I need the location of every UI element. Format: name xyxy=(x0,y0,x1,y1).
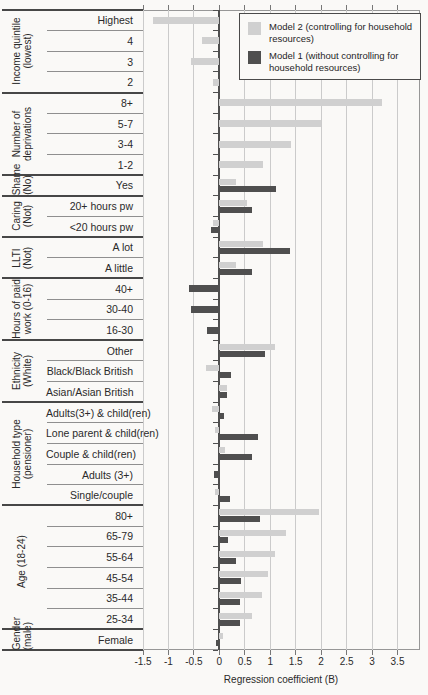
zero-axis-tick xyxy=(213,464,218,465)
category-label: Asian/Asian British xyxy=(46,385,133,399)
x-axis-title: Regression coefficient (B) xyxy=(181,674,381,685)
category-label: 16-30 xyxy=(46,323,133,337)
legend-item: Model 1 (without controlling for househo… xyxy=(248,50,414,73)
axis-tick-bottom xyxy=(295,650,296,655)
category-label: 4 xyxy=(46,34,133,48)
category-label: 1-2 xyxy=(46,158,133,172)
bar-model2 xyxy=(219,613,252,619)
bar-model2 xyxy=(219,262,236,268)
axis-tick-top xyxy=(244,5,245,10)
bar-model1 xyxy=(219,516,260,522)
zero-axis-tick xyxy=(213,588,218,589)
category-label: 40+ xyxy=(46,282,133,296)
zero-axis-tick xyxy=(213,567,218,568)
bar-model1 xyxy=(207,327,220,334)
category-label: 3-4 xyxy=(46,137,133,151)
category-separator xyxy=(47,608,143,609)
bar-model2 xyxy=(213,220,219,226)
bar-model1 xyxy=(219,248,289,254)
bar-model2 xyxy=(219,241,263,247)
legend: Model 2 (controlling for household resou… xyxy=(239,13,421,80)
category-label: 25-34 xyxy=(46,612,133,626)
bar-model2 xyxy=(215,489,219,495)
category-label: Black/Black British xyxy=(46,364,133,378)
bar-model2 xyxy=(212,406,219,412)
bar-model2 xyxy=(202,37,220,44)
zero-axis-tick xyxy=(213,484,218,485)
category-label: 8+ xyxy=(46,96,133,110)
category-label: 80+ xyxy=(46,509,133,523)
bar-model1 xyxy=(219,186,276,192)
bar-model1 xyxy=(219,537,228,543)
category-separator xyxy=(47,319,143,320)
axis-tick-top xyxy=(397,5,398,10)
zero-axis-tick xyxy=(213,30,218,31)
zero-axis-tick xyxy=(213,422,218,423)
axis-tick-bottom xyxy=(372,650,373,655)
category-separator xyxy=(47,216,143,217)
bar-model1 xyxy=(219,620,239,626)
category-label: 45-54 xyxy=(46,571,133,585)
bar-model2 xyxy=(219,99,382,106)
bar-model2 xyxy=(219,385,227,391)
zero-axis-tick xyxy=(213,526,218,527)
axis-tick-top xyxy=(295,5,296,10)
bar-model1 xyxy=(219,351,265,357)
zero-axis-tick xyxy=(213,154,218,155)
category-label: 20+ hours pw xyxy=(46,199,133,213)
legend-swatch-model1 xyxy=(248,51,261,64)
bar-model1 xyxy=(211,227,219,233)
category-separator xyxy=(47,133,143,134)
gridline xyxy=(397,10,398,650)
zero-axis-tick xyxy=(213,629,218,630)
category-separator xyxy=(47,443,143,444)
axis-tick-top xyxy=(346,5,347,10)
axis-tick-top xyxy=(193,5,194,10)
bar-model2 xyxy=(215,427,219,433)
category-separator xyxy=(47,257,143,258)
group-label: Hours of paid work (0-16) xyxy=(11,278,33,340)
axis-tick-bottom xyxy=(270,650,271,655)
zero-axis-tick xyxy=(213,51,218,52)
zero-axis-tick xyxy=(213,319,218,320)
category-label: Female xyxy=(46,633,133,647)
category-separator xyxy=(47,51,143,52)
bar-model2 xyxy=(191,58,219,65)
legend-item: Model 2 (controlling for household resou… xyxy=(248,21,414,44)
zero-axis-tick xyxy=(213,340,218,341)
zero-axis-tick xyxy=(213,278,218,279)
category-separator xyxy=(47,299,143,300)
category-separator xyxy=(47,588,143,589)
regression-coefficient-chart: Model 2 (controlling for household resou… xyxy=(0,0,428,695)
bar-model1 xyxy=(219,578,241,584)
category-separator xyxy=(47,567,143,568)
bar-model2 xyxy=(219,551,275,557)
category-label: 65-79 xyxy=(46,529,133,543)
group-label: Ethnicity (White) xyxy=(11,340,33,402)
bar-model2 xyxy=(219,141,290,148)
category-label: Adults (3+) xyxy=(46,468,133,482)
bar-model2 xyxy=(213,79,219,86)
category-label: Adults(3+) & child(ren) xyxy=(46,406,133,420)
bar-model2 xyxy=(206,365,220,371)
bar-model1 xyxy=(219,392,227,398)
zero-axis-tick xyxy=(213,257,218,258)
axis-tick-bottom xyxy=(346,650,347,655)
zero-axis-tick xyxy=(213,113,218,114)
legend-label: Model 1 (without controlling for househo… xyxy=(269,50,414,73)
bar-model2 xyxy=(219,200,246,206)
bar-model1 xyxy=(219,599,239,605)
category-label: 3 xyxy=(46,55,133,69)
zero-axis-tick xyxy=(213,92,218,93)
gridline xyxy=(143,10,144,650)
zero-axis-tick xyxy=(213,505,218,506)
group-label: Gender (male) xyxy=(11,629,33,650)
bar-model2 xyxy=(219,161,262,168)
category-label: Yes xyxy=(46,178,133,192)
category-separator xyxy=(47,526,143,527)
zero-axis-tick xyxy=(213,381,218,382)
category-label: 2 xyxy=(46,75,133,89)
category-separator xyxy=(47,30,143,31)
bar-model1 xyxy=(219,496,230,502)
category-separator xyxy=(47,360,143,361)
